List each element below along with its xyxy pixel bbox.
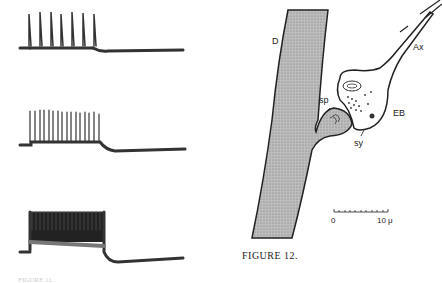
figure-caption: FIGURE 12. bbox=[242, 250, 298, 261]
synapse-diagram-panel: D Ax EB sp sy 0 10 μ FIGURE 12. bbox=[230, 0, 442, 283]
scale-bar bbox=[334, 209, 388, 212]
label-end-bulb: EB bbox=[393, 108, 405, 118]
spike-traces-panel: FIGURE 11. bbox=[0, 0, 220, 283]
synapse-diagram bbox=[230, 0, 442, 283]
caption-fragment: FIGURE 11. bbox=[18, 276, 54, 283]
label-synapse: sy bbox=[354, 138, 363, 148]
label-spine: sp bbox=[319, 95, 329, 105]
trace-2 bbox=[20, 110, 185, 151]
label-dendrite: D bbox=[272, 36, 279, 46]
end-bulb bbox=[338, 12, 434, 130]
spike-traces bbox=[0, 0, 220, 283]
scale-min: 0 bbox=[331, 216, 335, 225]
trace-1 bbox=[20, 12, 183, 51]
trace-3 bbox=[20, 212, 183, 262]
dendrite-shape bbox=[252, 10, 352, 238]
scale-max: 10 μ bbox=[377, 216, 393, 225]
label-axon: Ax bbox=[413, 42, 424, 52]
